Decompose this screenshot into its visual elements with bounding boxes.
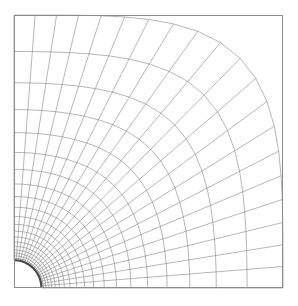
mesh-plot-canvas	[0, 0, 298, 306]
mesh-figure	[0, 0, 298, 306]
